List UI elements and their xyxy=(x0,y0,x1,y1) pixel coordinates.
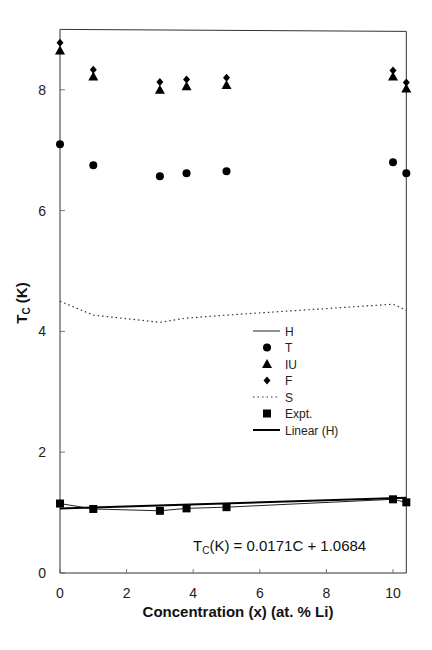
series-s xyxy=(60,301,406,322)
legend-item: T xyxy=(263,341,293,355)
data-point xyxy=(389,158,397,166)
data-point xyxy=(55,46,65,55)
x-axis: 0246810 xyxy=(56,569,401,601)
legend-marker-icon xyxy=(262,359,272,368)
h-line xyxy=(60,499,406,510)
series-iu xyxy=(55,46,411,94)
legend-label: S xyxy=(285,391,293,405)
y-tick-label: 0 xyxy=(38,565,46,581)
legend-item: Linear (H) xyxy=(253,424,338,438)
legend-item: H xyxy=(253,325,294,339)
legend-marker-icon xyxy=(263,410,271,418)
y-tick-label: 2 xyxy=(38,444,46,460)
data-point xyxy=(403,79,410,87)
series-t xyxy=(56,140,410,180)
data-point xyxy=(156,172,164,180)
data-point xyxy=(183,76,190,84)
legend-item: Expt. xyxy=(263,407,312,421)
eq-tail: (K) = 0.0171C + 1.0684 xyxy=(209,537,366,554)
series-expt xyxy=(56,495,410,514)
plot-frame xyxy=(60,29,406,573)
legend-item: IU xyxy=(262,358,297,372)
x-tick-label: 0 xyxy=(56,585,64,601)
y-title-sub: C xyxy=(21,307,32,314)
x-tick-label: 8 xyxy=(323,585,331,601)
y-axis-title: TC (K) xyxy=(13,282,32,323)
legend-item: F xyxy=(264,374,293,388)
legend-item: S xyxy=(253,391,293,405)
data-point xyxy=(183,169,191,177)
legend-label: IU xyxy=(285,358,297,372)
data-point xyxy=(156,78,163,86)
legend-label: T xyxy=(285,341,293,355)
plot-border xyxy=(60,29,406,573)
y-tick-label: 4 xyxy=(38,323,46,339)
eq-main: T xyxy=(193,537,202,554)
data-point xyxy=(89,161,97,169)
y-title-tail: (K) xyxy=(13,282,30,307)
regression-equation: TC(K) = 0.0171C + 1.0684 xyxy=(193,537,366,556)
x-tick-label: 2 xyxy=(123,585,131,601)
y-title-main: T xyxy=(13,315,30,324)
chart: 02468 0246810 HTIUFSExpt.Linear (H) Conc… xyxy=(0,0,432,650)
data-point xyxy=(90,66,97,74)
legend-label: Expt. xyxy=(285,407,312,421)
data-point xyxy=(56,500,64,508)
data-point xyxy=(57,39,64,47)
data-point xyxy=(155,85,165,94)
x-axis-title: Concentration (x) (at. % Li) xyxy=(143,603,334,620)
series-f xyxy=(57,39,410,87)
data-point xyxy=(223,167,231,175)
data-point xyxy=(156,507,164,515)
legend-label: F xyxy=(285,374,292,388)
data-point xyxy=(402,498,410,506)
legend-label: Linear (H) xyxy=(285,424,338,438)
x-tick-label: 10 xyxy=(385,585,401,601)
x-tick-label: 6 xyxy=(256,585,264,601)
data-point xyxy=(390,66,397,74)
s-dotted-line xyxy=(60,301,406,322)
data-point xyxy=(89,505,97,513)
data-point xyxy=(389,495,397,503)
legend-label: H xyxy=(285,325,294,339)
legend: HTIUFSExpt.Linear (H) xyxy=(253,325,338,438)
data-point xyxy=(56,140,64,148)
data-point xyxy=(223,74,230,82)
y-tick-label: 6 xyxy=(38,203,46,219)
legend-marker-icon xyxy=(264,377,271,385)
y-tick-label: 8 xyxy=(38,82,46,98)
x-tick-label: 4 xyxy=(189,585,197,601)
eq-sub: C xyxy=(202,545,209,556)
data-point xyxy=(402,169,410,177)
series-h xyxy=(60,499,406,510)
legend-marker-icon xyxy=(263,344,271,352)
series-layer xyxy=(55,39,411,515)
